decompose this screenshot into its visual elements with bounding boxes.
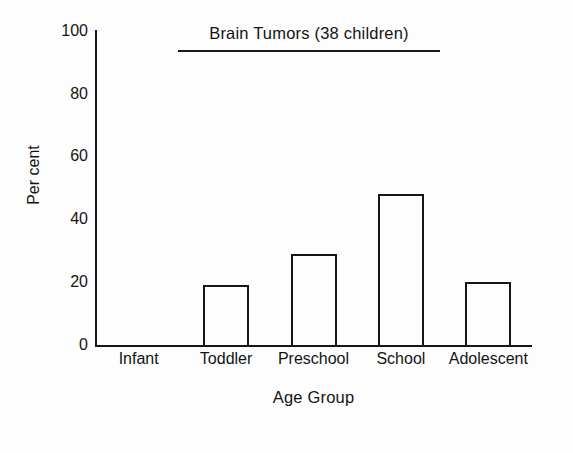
x-axis-tick-label-toddler: Toddler (182, 350, 269, 368)
x-axis-tick-label-preschool: Preschool (270, 350, 357, 368)
bar-school (378, 194, 424, 345)
x-axis-tick-label-infant: Infant (95, 350, 182, 368)
bar-chart-figure: Brain Tumors (38 children) 020406080100 … (0, 0, 573, 453)
x-axis-tick-label-school: School (357, 350, 444, 368)
x-axis-tick-label-adolescent: Adolescent (445, 350, 532, 368)
bar-adolescent (465, 282, 511, 345)
bars-layer: InfantToddlerPreschoolSchoolAdolescent (0, 0, 573, 453)
bar-toddler (203, 285, 249, 345)
bar-preschool (291, 254, 337, 345)
x-axis-title: Age Group (95, 388, 532, 407)
